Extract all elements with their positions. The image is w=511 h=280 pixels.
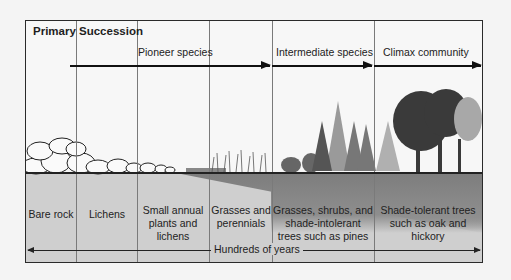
pioneer-arrow <box>70 65 270 67</box>
column-divider <box>76 21 77 262</box>
diagram-title: Primary Succession <box>33 25 143 37</box>
stage-group-pioneer: Pioneer species <box>138 46 213 58</box>
stage-climax: Shade-tolerant trees such as oak and hic… <box>375 204 481 243</box>
succession-diagram: Primary Succession Pioneer species Inter… <box>25 20 483 263</box>
stage-group-climax: Climax community <box>383 46 469 58</box>
timeline-label: Hundreds of years <box>211 243 303 255</box>
climax-arrow <box>374 65 481 67</box>
ground-line <box>26 172 482 174</box>
arrowhead-right-icon <box>474 247 481 253</box>
intermediate-arrow <box>272 65 372 67</box>
arrowhead-left-icon <box>27 247 34 253</box>
stage-group-intermediate: Intermediate species <box>276 46 373 58</box>
stage-grasses-perennials: Grasses and perennials <box>210 204 272 230</box>
stage-small-annuals: Small annual plants and lichens <box>138 204 208 243</box>
stage-lichens: Lichens <box>77 208 137 221</box>
stage-bare-rock: Bare rock <box>28 208 74 221</box>
stage-intermediate: Grasses, shrubs, and shade-intolerant tr… <box>273 204 373 243</box>
